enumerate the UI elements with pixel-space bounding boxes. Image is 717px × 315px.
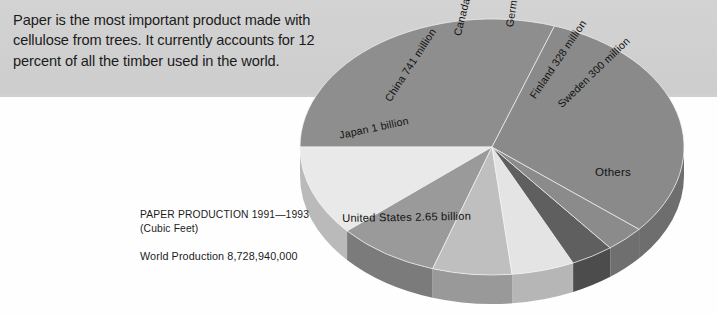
slice-label-united-states: United States 2.65 billion: [342, 210, 471, 224]
chart-canvas: Paper is the most important product made…: [0, 0, 717, 315]
chart-caption: PAPER PRODUCTION 1991—1993 (Cubic Feet): [140, 208, 309, 237]
pie-top-faces: [300, 19, 684, 275]
caption-units: (Cubic Feet): [140, 222, 309, 236]
world-production-total: World Production 8,728,940,000: [140, 249, 298, 263]
caption-title: PAPER PRODUCTION 1991—1993: [140, 208, 309, 222]
slice-label-others: Others: [595, 165, 631, 178]
